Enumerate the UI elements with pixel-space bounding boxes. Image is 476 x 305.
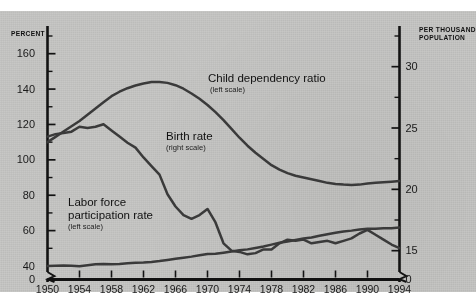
chart-figure: PERCENT PER THOUSAND POPULATION 16014012… bbox=[0, 0, 476, 305]
birth-rate-scale-note: (right scale) bbox=[166, 143, 206, 152]
right-axis-title-line1: PER THOUSAND bbox=[419, 26, 476, 34]
labor-force-scale-note: (left scale) bbox=[68, 222, 103, 231]
child-dependency-label: Child dependency ratio bbox=[208, 72, 326, 85]
data-series-layer bbox=[48, 82, 400, 266]
left-tick-label: 60 bbox=[9, 225, 35, 236]
left-axis-title: PERCENT bbox=[11, 30, 45, 38]
left-tick-label: 100 bbox=[9, 154, 35, 165]
birth-rate-label: Birth rate bbox=[166, 130, 213, 143]
right-axis-title: PER THOUSAND POPULATION bbox=[419, 26, 476, 43]
right-axis-title-line2: POPULATION bbox=[419, 34, 476, 42]
left-tick-label: 140 bbox=[9, 84, 35, 95]
right-tick-label: 20 bbox=[406, 184, 432, 195]
left-tick-label: 40 bbox=[9, 261, 35, 272]
x-tick-label: 1994 bbox=[380, 284, 420, 295]
right-tick-label: 30 bbox=[406, 61, 432, 72]
left-tick-label: 160 bbox=[9, 48, 35, 59]
left-tick-label: 80 bbox=[9, 190, 35, 201]
child-dependency-scale-note: (left scale) bbox=[210, 85, 245, 94]
left-tick-label: 120 bbox=[9, 119, 35, 130]
right-tick-label: 25 bbox=[406, 123, 432, 134]
right-tick-label: 15 bbox=[406, 245, 432, 256]
labor-force-label-line1: Labor force bbox=[68, 196, 126, 209]
chart-plot-area bbox=[0, 0, 476, 305]
labor-force-label-line2: participation rate bbox=[68, 209, 153, 222]
